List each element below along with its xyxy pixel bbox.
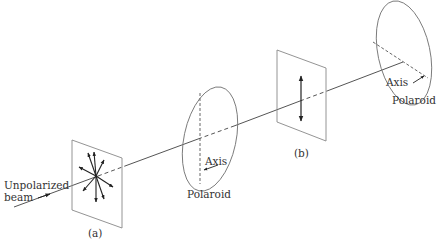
- plate-b: [277, 50, 326, 141]
- polaroid1-label: Polaroid: [187, 188, 231, 200]
- polarization-diagram: Unpolarized beam (a) Axis Polaroid (b) A…: [0, 0, 442, 243]
- plate-b-label: (b): [294, 147, 309, 159]
- plate-a-label: (a): [88, 227, 102, 239]
- unpolarized-label-line1: Unpolarized: [4, 179, 69, 191]
- plate-a: [72, 140, 122, 228]
- polaroid2-label: Polaroid: [392, 94, 436, 106]
- polaroid1-axis-label: Axis: [204, 155, 227, 167]
- unpolarized-arrows-icon: [79, 152, 113, 202]
- unpolarized-label-line2: beam: [4, 191, 33, 203]
- polaroid-1: [174, 82, 247, 196]
- polaroid2-axis-label: Axis: [385, 76, 408, 88]
